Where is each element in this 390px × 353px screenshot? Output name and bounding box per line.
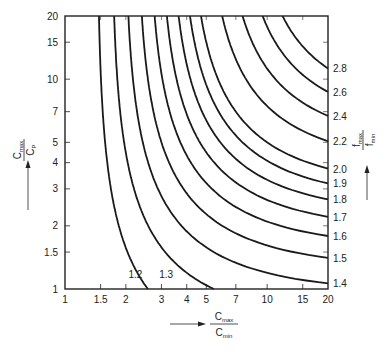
curve-label: 2.4 [333,111,347,122]
curve-label: 1.2 [128,269,142,280]
curve-label: 1.8 [333,194,347,205]
curve-1.2 [99,16,148,289]
x-tick-label: 1.5 [94,294,108,305]
y-tick-label: 5 [52,137,58,148]
curve-2.6 [263,16,328,92]
svg-text:fmax: fmax [351,133,363,147]
right-axis-label: fmax fmin [351,130,376,150]
curve-label: 1.4 [333,278,347,289]
y-tick-label: 3 [52,183,58,194]
x-tick-label: 20 [322,294,334,305]
curve-label: 1.9 [333,178,347,189]
x-tick-label: 5 [204,294,210,305]
y-tick-label: 10 [47,74,59,85]
curve-label: 1.3 [159,269,173,280]
svg-text:Cmin: Cmin [216,327,233,339]
x-tick-label: 1 [62,294,68,305]
curve-label: 2.0 [333,164,347,175]
curve-1.6 [155,16,328,236]
svg-text:Cmax: Cmax [215,311,234,323]
y-tick-label: 2 [52,220,58,231]
curve-2.0 [201,16,328,169]
y-tick-label: 1 [52,284,58,295]
plot-frame [65,16,328,289]
curves [99,16,328,289]
y-tick-label: 1.5 [44,247,58,258]
x-tick-label: 4 [184,294,190,305]
x-tick-label: 3 [159,294,165,305]
curve-2.4 [243,16,328,116]
x-axis-arrow-icon [170,322,206,327]
y-tick-label: 7 [52,106,58,117]
y-axis-label: Cmax CP [12,139,37,161]
svg-text:fmin: fmin [364,134,376,146]
curve-label: 1.5 [333,253,347,264]
curve-label: 1.7 [333,212,347,223]
right-axis-arrow-icon [365,165,370,200]
curve-label: 2.2 [333,136,347,147]
curve-1.5 [142,16,328,258]
x-tick-label: 15 [297,294,309,305]
curve-1.3 [114,16,214,289]
y-tick-label: 20 [47,11,59,22]
chart: 11.523457101520 11.523457101520 1.21.31.… [0,0,390,353]
curve-label: 1.6 [333,231,347,242]
curve-label: 2.8 [333,63,347,74]
x-tick-label: 2 [123,294,129,305]
curve-1.7 [167,16,328,217]
y-tick-label: 4 [52,157,58,168]
x-axis-label: Cmax Cmin [210,311,238,339]
svg-text:CP: CP [25,144,37,155]
y-tick-label: 15 [47,37,59,48]
curve-label: 2.6 [333,87,347,98]
x-tick-label: 10 [262,294,274,305]
y-axis-arrow-icon [26,160,31,210]
svg-text:Cmax: Cmax [12,141,24,160]
x-tick-label: 7 [233,294,239,305]
